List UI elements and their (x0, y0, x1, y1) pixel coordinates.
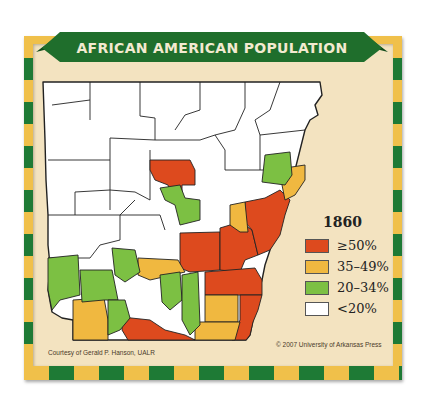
county-red-2 (180, 232, 220, 272)
county-yellow-4 (205, 295, 238, 322)
legend-swatch-white (305, 302, 329, 316)
county-green-1 (262, 152, 292, 185)
county-green-8 (182, 272, 200, 335)
legend-swatch-yellow (305, 260, 329, 274)
legend-label: <20% (337, 301, 377, 316)
legend-item: 20–34% (305, 278, 389, 297)
legend-label: ≥50% (337, 238, 377, 253)
legend: 1860 ≥50% 35–49% 20–34% <20% (305, 214, 389, 320)
legend-swatch-red (305, 239, 329, 253)
legend-item: ≥50% (305, 236, 389, 255)
county-green-4 (80, 270, 118, 302)
map-title: AFRICAN AMERICAN POPULATION (36, 30, 388, 66)
legend-label: 35–49% (337, 259, 389, 274)
legend-item: <20% (305, 299, 389, 318)
legend-item: 35–49% (305, 257, 389, 276)
credit-left: Courtesy of Gerald P. Hanson, UALR (48, 349, 155, 356)
county-red-5 (205, 268, 262, 295)
county-yellow-6 (73, 298, 108, 340)
title-banner-text-wrap: AFRICAN AMERICAN POPULATION (36, 30, 388, 66)
legend-swatch-green (305, 281, 329, 295)
legend-label: 20–34% (337, 280, 389, 295)
credit-right: © 2007 University of Arkansas Press (276, 341, 382, 348)
legend-year: 1860 (323, 214, 389, 230)
county-yellow-5 (195, 322, 240, 340)
